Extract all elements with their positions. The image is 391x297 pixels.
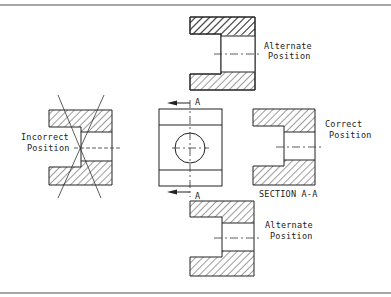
section-title: SECTION A-A xyxy=(259,189,318,199)
label-correct-line2: Position xyxy=(329,130,372,140)
cutting-plane-arrow-top-icon xyxy=(167,101,190,106)
cutting-plane-label-top: A xyxy=(195,97,200,107)
cutting-plane-arrow-bottom-icon xyxy=(167,190,190,195)
technical-drawing: Alternate Position Incorrect Position A … xyxy=(0,0,391,297)
cutting-plane-label-bottom: A xyxy=(195,191,200,201)
section-view-alternate-top xyxy=(190,17,262,90)
label-incorrect-line2: Position xyxy=(27,143,70,153)
label-alternate-top-line1: Alternate xyxy=(264,41,312,51)
label-alternate-top-line2: Position xyxy=(268,51,311,61)
front-view xyxy=(159,100,222,197)
section-view-alternate-bottom xyxy=(190,201,262,276)
label-incorrect-line1: Incorrect xyxy=(21,132,69,142)
label-alternate-bottom-line2: Position xyxy=(270,231,313,241)
label-correct-line1: Correct xyxy=(325,119,362,129)
label-alternate-bottom-line1: Alternate xyxy=(265,220,313,230)
section-view-correct xyxy=(253,109,322,185)
